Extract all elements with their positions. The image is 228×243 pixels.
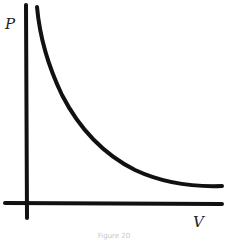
figure-caption: Figure 20 [0, 232, 228, 240]
pv-curve [37, 7, 222, 186]
x-axis-label: V [193, 213, 204, 231]
pv-diagram [0, 0, 228, 243]
x-axis [5, 203, 222, 204]
y-axis [26, 5, 27, 218]
y-axis-label: P [5, 15, 15, 33]
